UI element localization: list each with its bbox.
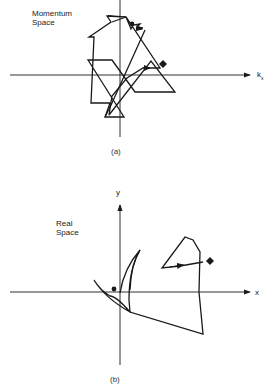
panel-b-title: Real Space <box>56 219 79 237</box>
panel-b-title-line1: Real <box>56 219 79 228</box>
kx-axis-label: kx <box>257 70 264 83</box>
panel-a-title-line2: Space <box>32 18 72 27</box>
start-point-marker <box>130 22 135 27</box>
y-axis-label: y <box>116 188 120 197</box>
panel-a-caption: (a) <box>111 147 121 156</box>
panel-a-title: Momentum Space <box>32 9 72 27</box>
start-point-marker <box>112 287 117 292</box>
panel-b-caption: (b) <box>110 375 120 384</box>
real-trajectory-crescent <box>120 237 203 334</box>
end-point-marker <box>206 257 214 265</box>
panel-a-title-line1: Momentum <box>32 9 72 18</box>
diagram-canvas <box>0 0 279 387</box>
kx-subscript: x <box>261 75 264 81</box>
end-point-marker <box>159 60 167 68</box>
x-axis-label: x <box>255 288 259 297</box>
panel-b-real-space <box>10 205 250 365</box>
panel-b-title-line2: Space <box>56 228 79 237</box>
